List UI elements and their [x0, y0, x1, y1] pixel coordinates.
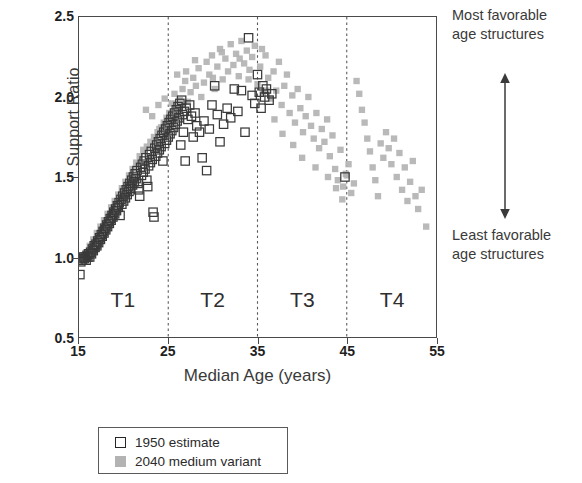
x-tick-label: 55 [417, 343, 457, 359]
region-label-t1: T1 [93, 288, 153, 312]
annotation-line-1: Least favorable [452, 226, 580, 245]
legend-label-2040-medium-variant: 2040 medium variant [135, 454, 261, 469]
y-tick-label: 1.0 [38, 250, 74, 266]
y-tick-mark [72, 258, 79, 259]
most-favorable-annotation: Most favorable age structures [452, 6, 580, 43]
filled-square-marker-icon [115, 456, 126, 467]
annotation-line-2: age structures [452, 25, 580, 44]
annotation-line-2: age structures [452, 245, 580, 264]
series-2040-medium-variant [79, 38, 429, 260]
x-tick-label: 25 [148, 343, 188, 359]
region-label-t3: T3 [272, 288, 332, 312]
legend-label-1950-estimate: 1950 estimate [135, 435, 220, 450]
x-tick-label: 35 [238, 343, 278, 359]
support-ratio-scatter-figure: 0.51.01.52.02.5 1525354555 T1T2T3T4 Supp… [0, 0, 582, 483]
double-arrow-icon [497, 72, 513, 220]
legend-item-1950-estimate: 1950 estimate [115, 433, 287, 451]
x-tick-label: 45 [327, 343, 367, 359]
region-label-t4: T4 [362, 288, 422, 312]
series-1950-estimate [79, 34, 349, 279]
annotation-line-1: Most favorable [452, 6, 580, 25]
y-tick-label: 2.5 [38, 8, 74, 24]
x-tick-label: 15 [58, 343, 98, 359]
chart-legend: 1950 estimate 2040 medium variant [98, 427, 288, 474]
region-label-t2: T2 [183, 288, 243, 312]
least-favorable-annotation: Least favorable age structures [452, 226, 580, 263]
y-axis-title: Support Ratio [65, 37, 83, 197]
x-axis-title: Median Age (years) [78, 366, 437, 386]
legend-item-2040-medium-variant: 2040 medium variant [115, 452, 287, 470]
open-square-marker-icon [115, 437, 126, 448]
